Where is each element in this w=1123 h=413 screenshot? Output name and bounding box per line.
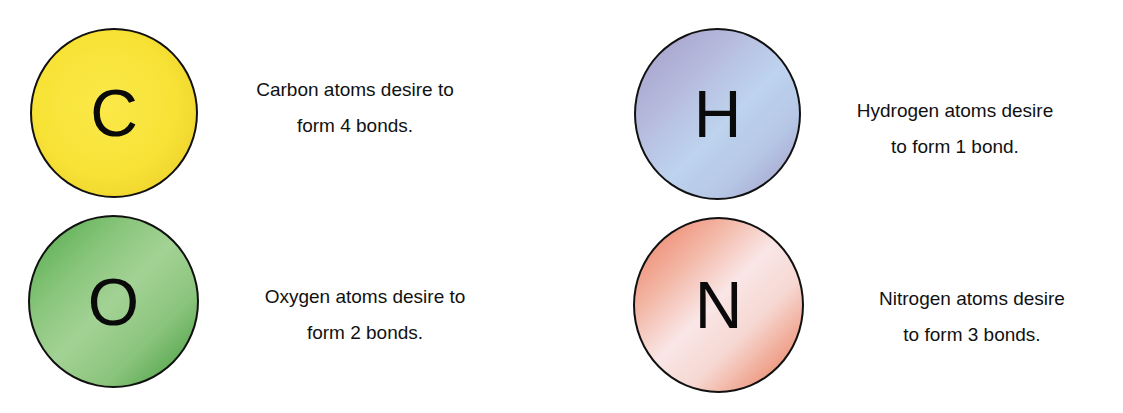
nitrogen-caption: Nitrogen atoms desire to form 3 bonds. [822,281,1122,353]
hydrogen-caption-line-2: to form 1 bond. [805,129,1105,165]
nitrogen-symbol: N [695,272,743,338]
nitrogen-atom-circle: N [633,217,804,393]
carbon-caption-line-2: form 4 bonds. [205,108,505,144]
carbon-symbol: C [90,80,138,146]
oxygen-caption: Oxygen atoms desire to form 2 bonds. [215,279,515,351]
hydrogen-atom-circle: H [634,28,801,200]
nitrogen-caption-line-1: Nitrogen atoms desire [822,281,1122,317]
carbon-caption: Carbon atoms desire to form 4 bonds. [205,72,505,144]
oxygen-symbol: O [88,269,139,335]
nitrogen-caption-line-2: to form 3 bonds. [822,317,1122,353]
carbon-caption-line-1: Carbon atoms desire to [205,72,505,108]
carbon-atom-circle: C [30,28,198,198]
hydrogen-symbol: H [694,81,742,147]
hydrogen-caption: Hydrogen atoms desire to form 1 bond. [805,93,1105,165]
oxygen-atom-circle: O [28,215,199,388]
oxygen-caption-line-2: form 2 bonds. [215,315,515,351]
hydrogen-caption-line-1: Hydrogen atoms desire [805,93,1105,129]
oxygen-caption-line-1: Oxygen atoms desire to [215,279,515,315]
